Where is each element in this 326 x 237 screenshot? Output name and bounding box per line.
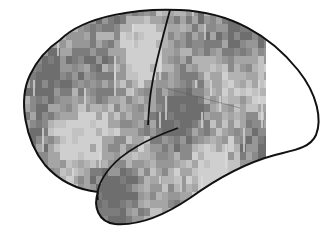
activation-mosaic [0,0,271,237]
brain-figure [0,0,326,237]
brain-illustration [0,0,326,237]
